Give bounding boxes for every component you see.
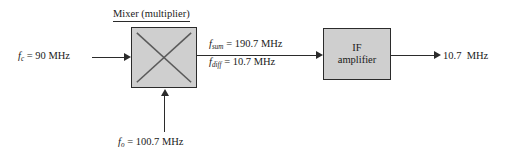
- lo-value: 100.7: [136, 136, 160, 147]
- mixer-block[interactable]: [131, 27, 197, 88]
- rf-input-label: fc = 90 MHz: [18, 51, 70, 63]
- if-output-arrowhead: [434, 51, 441, 59]
- block-diagram-canvas: Mixer (multiplier) fc = 90 MHz fo = 100.…: [0, 0, 508, 163]
- if-amplifier-block[interactable]: IF amplifier: [323, 28, 391, 80]
- sum-frequency-label: fsum = 190.7 MHz: [209, 39, 283, 51]
- mixer-title-label: Mixer (multiplier): [113, 9, 190, 22]
- if-amplifier-label-line2: amplifier: [338, 54, 376, 66]
- output-unit: MHz: [467, 50, 489, 61]
- local-oscillator-wire: [164, 96, 165, 132]
- if-amplifier-label-line1: IF: [352, 42, 361, 54]
- multiplier-x-icon: [132, 28, 196, 87]
- output-value: 10.7: [443, 50, 461, 61]
- lo-unit: MHz: [162, 136, 184, 147]
- sum-value: 190.7: [235, 38, 259, 49]
- local-oscillator-arrowhead: [161, 89, 169, 96]
- if-output-wire: [391, 55, 437, 56]
- sum-subscript: sum: [212, 43, 224, 51]
- sum-unit: MHz: [261, 38, 283, 49]
- rf-input-equals: =: [27, 50, 33, 61]
- rf-input-subscript: c: [21, 55, 24, 63]
- rf-input-unit: MHz: [48, 50, 70, 61]
- difference-frequency-label: fdiff = 10.7 MHz: [209, 57, 275, 69]
- diff-value: 10.7: [233, 56, 251, 67]
- rf-input-arrowhead: [124, 53, 131, 61]
- local-oscillator-label: fo = 100.7 MHz: [118, 137, 184, 149]
- mixer-output-arrowhead: [316, 51, 323, 59]
- diff-equals: =: [224, 56, 230, 67]
- lo-equals: =: [127, 136, 133, 147]
- lo-subscript: o: [121, 141, 125, 149]
- diff-unit: MHz: [254, 56, 276, 67]
- rf-input-value: 90: [35, 50, 46, 61]
- output-frequency-label: 10.7 MHz: [443, 51, 488, 62]
- diff-subscript: diff: [212, 61, 222, 69]
- sum-equals: =: [226, 38, 232, 49]
